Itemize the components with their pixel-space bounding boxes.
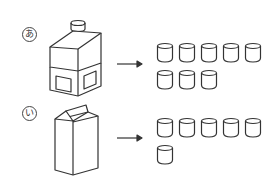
- diagram-canvas: [0, 0, 273, 190]
- cup-icon: [180, 44, 195, 63]
- cup-icon: [180, 119, 195, 138]
- cups-group-a: [158, 44, 261, 90]
- cup-icon: [224, 119, 239, 138]
- cup-icon: [202, 44, 217, 63]
- cup-icon: [202, 119, 217, 138]
- cups-group-i: [158, 119, 261, 165]
- cup-icon: [246, 119, 261, 138]
- cup-icon: [180, 71, 195, 90]
- cup-icon: [202, 71, 217, 90]
- cup-icon: [158, 44, 173, 63]
- cup-icon: [158, 71, 173, 90]
- arrow-icon: [117, 135, 142, 141]
- cup-icon: [224, 44, 239, 63]
- arrow-icon: [117, 61, 142, 67]
- cup-icon: [158, 146, 173, 165]
- square-bottle-icon: [50, 21, 101, 97]
- cup-icon: [246, 44, 261, 63]
- milk-carton-icon: [55, 105, 98, 175]
- cup-icon: [158, 119, 173, 138]
